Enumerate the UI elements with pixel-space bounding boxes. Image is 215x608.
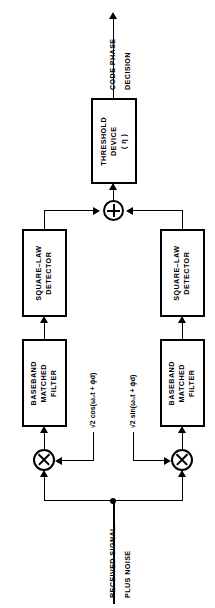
output-label-line1: CODE PHASE bbox=[108, 38, 117, 90]
lo-sin-horizontal-wire bbox=[133, 460, 167, 461]
lo-sin-label: √2 sin(ω₀t + ϕd) bbox=[129, 375, 136, 428]
mf-upper-line2: MATCHED bbox=[39, 364, 48, 403]
mf-upper-line3: FILTER bbox=[50, 369, 59, 396]
mf-lower-input-arrowhead bbox=[178, 426, 186, 433]
summer-right-arrowhead bbox=[126, 207, 133, 215]
square-law-detector-lower-block[interactable]: SQUARE–LAW DETECTOR bbox=[160, 229, 205, 317]
matched-filter-upper-label: BASEBAND MATCHED FILTER bbox=[29, 361, 60, 405]
output-label-line2: DECISION bbox=[123, 52, 132, 90]
lo-cos-horizontal-wire bbox=[60, 460, 94, 461]
mf-lower-line3: FILTER bbox=[188, 369, 197, 396]
lo-cos-vertical-wire bbox=[93, 432, 94, 461]
summer-node[interactable] bbox=[103, 200, 124, 221]
multiplier-lower-lo-arrowhead bbox=[164, 457, 171, 465]
sqlaw-lower-input-arrowhead bbox=[178, 316, 186, 323]
input-label-line1: RECEIVED SIGNAL bbox=[108, 526, 117, 598]
upper-sqlaw-riser bbox=[44, 210, 45, 229]
sqlaw-lower-line1: SQUARE–LAW bbox=[172, 245, 181, 300]
baseband-matched-filter-lower-block[interactable]: BASEBAND MATCHED FILTER bbox=[160, 339, 205, 427]
baseband-matched-filter-upper-block[interactable]: BASEBAND MATCHED FILTER bbox=[22, 339, 67, 427]
multiplier-lower-signal-arrowhead bbox=[178, 470, 186, 477]
square-law-lower-label: SQUARE–LAW DETECTOR bbox=[172, 245, 192, 300]
sqlaw-upper-line1: SQUARE–LAW bbox=[34, 245, 43, 300]
upper-branch-to-summer-wire bbox=[44, 210, 94, 211]
mf-upper-input-arrowhead bbox=[40, 426, 48, 433]
sqlaw-lower-line2: DETECTOR bbox=[183, 252, 192, 295]
matched-filter-lower-label: BASEBAND MATCHED FILTER bbox=[167, 361, 198, 405]
multiplier-upper-node[interactable] bbox=[33, 449, 55, 471]
sqlaw-upper-input-arrowhead bbox=[40, 316, 48, 323]
threshold-line2: DEVICE bbox=[109, 126, 118, 155]
summer-left-arrowhead bbox=[93, 207, 100, 215]
square-law-detector-upper-block[interactable]: SQUARE–LAW DETECTOR bbox=[22, 229, 67, 317]
mf-lower-line1: BASEBAND bbox=[167, 361, 176, 405]
sqlaw-upper-line2: DETECTOR bbox=[45, 252, 54, 295]
multiplier-upper-signal-arrowhead bbox=[40, 470, 48, 477]
input-label-line2: PLUS NOISE bbox=[123, 550, 132, 598]
lo-sin-vertical-wire bbox=[133, 432, 134, 461]
mf-upper-line1: BASEBAND bbox=[29, 361, 38, 405]
lo-cos-label: √2 cos(ω₀t + ϕd) bbox=[89, 373, 96, 428]
multiplier-upper-lo-arrowhead bbox=[55, 457, 62, 465]
threshold-line3: ( η ) bbox=[119, 133, 128, 148]
square-law-upper-label: SQUARE–LAW DETECTOR bbox=[34, 245, 54, 300]
multiply-icon bbox=[173, 451, 191, 469]
block-diagram-canvas: CODE PHASE DECISION THRESHOLD DEVICE ( η… bbox=[0, 0, 215, 608]
plus-icon bbox=[105, 202, 122, 219]
multiply-icon bbox=[35, 451, 53, 469]
threshold-device-block[interactable]: THRESHOLD DEVICE ( η ) bbox=[91, 98, 137, 184]
mf-lower-line2: MATCHED bbox=[177, 364, 186, 403]
threshold-device-label: THRESHOLD DEVICE ( η ) bbox=[99, 117, 130, 166]
output-arrowhead bbox=[109, 12, 117, 19]
threshold-input-arrowhead bbox=[109, 183, 117, 190]
threshold-line1: THRESHOLD bbox=[99, 117, 108, 166]
lower-sqlaw-riser bbox=[182, 210, 183, 229]
multiplier-lower-node[interactable] bbox=[171, 449, 193, 471]
lower-branch-to-summer-wire bbox=[133, 210, 183, 211]
